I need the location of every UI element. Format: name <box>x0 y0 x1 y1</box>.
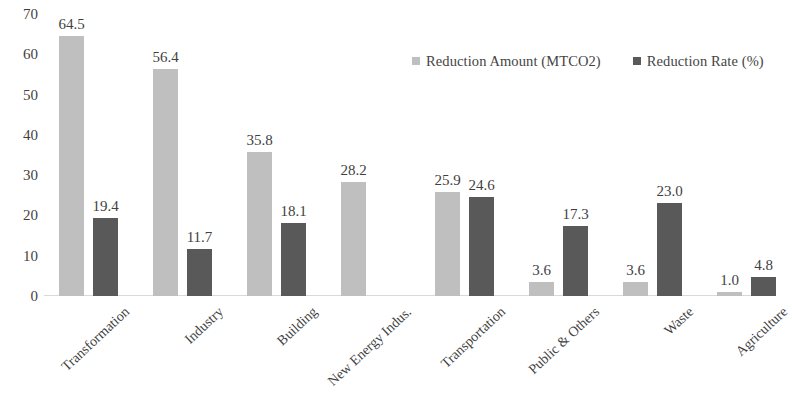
y-axis-tick: 20 <box>4 207 38 224</box>
bar-group: 3.6 17.3 <box>529 14 588 296</box>
bar-value-label: 64.5 <box>42 16 102 33</box>
y-axis-tick: 70 <box>4 6 38 23</box>
y-axis-tick: 50 <box>4 86 38 103</box>
x-axis-tick-label: Transportation <box>410 304 509 397</box>
bar-group: 3.6 23.0 <box>623 14 682 296</box>
bar-value-label: 23.0 <box>640 183 700 200</box>
bar-value-label: 11.7 <box>170 229 230 246</box>
bar-reduction-amount[interactable]: 35.8 <box>247 152 272 296</box>
x-axis-tick-label: Public & Others <box>504 304 603 397</box>
x-axis-tick-label: Industry <box>128 304 227 397</box>
y-axis: 70 60 50 40 30 20 10 0 <box>0 14 38 296</box>
x-axis-tick-label: Agriculture <box>692 304 791 397</box>
bar-reduction-amount[interactable]: 28.2 <box>341 182 366 296</box>
bar-group: 35.8 18.1 <box>247 14 306 296</box>
x-axis-labels: Transformation Industry Building New Ene… <box>44 300 766 397</box>
bar-value-label: 17.3 <box>546 206 606 223</box>
plot-area: 64.5 19.4 56.4 11.7 35.8 18.1 <box>44 14 766 296</box>
bar-value-label: 19.4 <box>76 198 136 215</box>
bar-reduction-amount[interactable]: 3.6 <box>623 282 648 297</box>
y-axis-tick: 30 <box>4 167 38 184</box>
bar-reduction-rate[interactable]: 11.7 <box>187 249 212 296</box>
y-axis-tick: 40 <box>4 126 38 143</box>
bar-group: 1.0 4.8 <box>717 14 776 296</box>
bar-reduction-amount[interactable]: 1.0 <box>717 292 742 296</box>
bar-group: 56.4 11.7 <box>153 14 212 296</box>
x-axis-tick-label: New Energy Indus. <box>316 304 415 397</box>
bar-group: 28.2 <box>341 14 400 296</box>
bar-group: 64.5 19.4 <box>59 14 118 296</box>
x-axis-tick-label: Transformation <box>34 304 133 397</box>
y-axis-tick: 60 <box>4 46 38 63</box>
bar-reduction-rate[interactable]: 18.1 <box>281 223 306 296</box>
bar-reduction-amount[interactable]: 3.6 <box>529 282 554 297</box>
bar-reduction-amount[interactable]: 56.4 <box>153 69 178 296</box>
bar-value-label: 28.2 <box>324 162 384 179</box>
y-axis-tick: 0 <box>4 288 38 305</box>
bar-reduction-rate[interactable]: 19.4 <box>93 218 118 296</box>
bar-reduction-amount[interactable]: 25.9 <box>435 192 460 296</box>
bar-reduction-rate[interactable]: 4.8 <box>751 277 776 296</box>
bar-reduction-rate[interactable]: 24.6 <box>469 197 494 296</box>
bar-value-label: 35.8 <box>230 132 290 149</box>
bar-group: 25.9 24.6 <box>435 14 494 296</box>
x-axis-tick-label: Building <box>222 304 321 397</box>
bar-value-label: 4.8 <box>734 257 792 274</box>
y-axis-tick: 10 <box>4 247 38 264</box>
bar-reduction-amount[interactable]: 64.5 <box>59 36 84 296</box>
bar-value-label: 24.6 <box>452 177 512 194</box>
bar-value-label: 56.4 <box>136 49 196 66</box>
x-axis-tick-label: Waste <box>598 304 697 397</box>
bar-reduction-rate[interactable]: 23.0 <box>657 203 682 296</box>
bar-reduction-rate[interactable]: 17.3 <box>563 226 588 296</box>
bar-value-label: 18.1 <box>264 203 324 220</box>
